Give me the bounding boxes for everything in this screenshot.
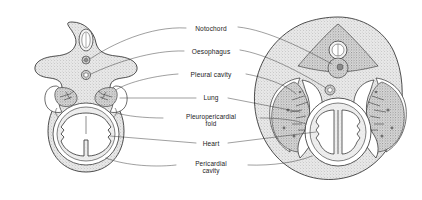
right-notochord-core [337,64,343,70]
label-notochord: Notochord [195,25,227,32]
label-heart: Heart [203,140,220,147]
left-notochord-core [84,58,88,62]
right-oesophagus-lumen [328,88,333,93]
label-pericardial-cavity: Pericardial [195,160,227,167]
left-oesophagus-lumen [84,73,88,77]
label-pericardial-cavity-line2: cavity [202,167,220,175]
label-oesophagus: Oesophagus [192,48,231,56]
label-pleural-cavity: Pleural cavity [191,71,232,79]
anatomical-figure: Notochord Oesophagus Pleural cavity Lung… [0,0,422,200]
label-pleuropericardial-fold-line2: fold [206,120,217,127]
label-lung: Lung [203,94,218,102]
